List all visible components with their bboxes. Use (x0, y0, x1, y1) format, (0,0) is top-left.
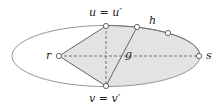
graph-diagram: u = u′ v = v′ r s h g (0, 0, 222, 109)
label-v: v = v′ (89, 93, 120, 104)
label-r: r (46, 50, 51, 61)
node-v (103, 83, 108, 88)
node-s (196, 53, 201, 58)
node-r (56, 53, 61, 58)
node-h2 (165, 30, 170, 35)
label-u: u = u′ (89, 7, 122, 18)
node-h1 (134, 24, 139, 29)
label-s: s (206, 50, 212, 61)
label-g: g (125, 49, 132, 60)
label-h: h (149, 15, 156, 26)
node-u (103, 23, 108, 28)
